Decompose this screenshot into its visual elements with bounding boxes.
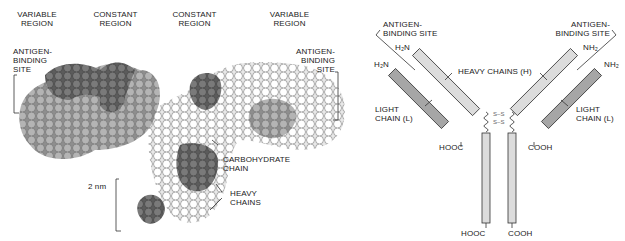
- nh2-heavy-label: NH₂: [583, 43, 598, 52]
- cooh-heavy-label: COOH: [508, 229, 532, 238]
- h2n-light-label: H₂N: [374, 60, 389, 69]
- hooc-heavy-label: HOOC: [461, 229, 485, 238]
- h2n-heavy-label: H₂N: [395, 43, 410, 52]
- light-chain-label-left: LIGHTCHAIN (L): [375, 105, 413, 123]
- hooc-light-label: HOOC: [439, 143, 463, 152]
- heavy-chains-h-label: HEAVY CHAINS (H): [458, 67, 532, 76]
- nh2-light-label: NH₂: [604, 60, 619, 69]
- antigen-binding-site-label-right-schematic: ANTIGEN-BINDING SITE: [545, 20, 610, 38]
- schematic-drawing: [0, 0, 625, 241]
- cooh-light-label: COOH: [528, 143, 552, 152]
- light-chain-label-right: LIGHTCHAIN (L): [576, 105, 614, 123]
- disulfide-bond-lower: S–S: [493, 118, 505, 127]
- antigen-binding-site-label-left-schematic: ANTIGEN-BINDING SITE: [383, 20, 438, 38]
